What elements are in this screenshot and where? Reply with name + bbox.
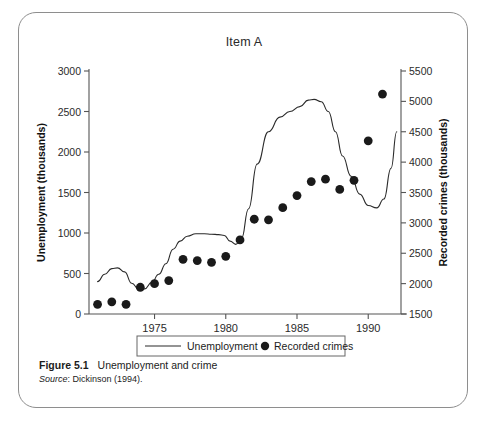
recorded-crimes-point [364, 136, 373, 145]
legend-dot-swatch [261, 342, 269, 350]
caption-figure-number: Figure 5.1 [39, 359, 89, 371]
recorded-crimes-point [250, 215, 259, 224]
caption-figure-title: Unemployment and crime [98, 359, 218, 371]
recorded-crimes-point [93, 300, 102, 309]
x-axis-tick-label: 1990 [356, 322, 380, 334]
right-axis-tick-label: 4000 [409, 156, 433, 168]
left-axis-tick-label: 2000 [58, 146, 82, 158]
right-axis-tick-label: 5000 [409, 95, 433, 107]
recorded-crimes-point [107, 297, 116, 306]
caption-source-text: : Dickinson (1994). [68, 374, 143, 384]
x-axis-tick-label: 1985 [285, 322, 309, 334]
recorded-crimes-point [207, 258, 216, 267]
recorded-crimes-point [350, 176, 359, 185]
left-axis-tick-label: 3000 [58, 65, 82, 77]
right-axis-tick-label: 4500 [409, 126, 433, 138]
x-axis-tick-label: 1975 [142, 322, 166, 334]
figure-page: Item A 050010001500200025003000150020002… [0, 0, 493, 426]
recorded-crimes-point [307, 177, 316, 186]
recorded-crimes-point [179, 255, 188, 264]
figure-card: Item A 050010001500200025003000150020002… [18, 12, 468, 408]
left-axis-tick-label: 2500 [58, 106, 82, 118]
recorded-crimes-point [193, 256, 202, 265]
legend-label-unemployment: Unemployment [187, 340, 258, 352]
right-axis-tick-label: 3000 [409, 217, 433, 229]
recorded-crimes-point [136, 283, 145, 292]
legend-label-recorded-crimes: Recorded crimes [274, 340, 353, 352]
unemployment-line [98, 99, 397, 289]
right-axis-tick-label: 1500 [409, 308, 433, 320]
left-axis-tick-label: 0 [75, 308, 81, 320]
caption-source-label: Source [39, 374, 68, 384]
recorded-crimes-point [335, 185, 344, 194]
recorded-crimes-point [164, 276, 173, 285]
right-axis-title: Recorded crimes (thousands) [437, 118, 449, 266]
recorded-crimes-point [221, 252, 230, 261]
left-axis-tick-label: 1500 [58, 187, 82, 199]
right-axis-tick-label: 5500 [409, 65, 433, 77]
chart-plot: 0500100015002000250030001500200025003000… [19, 13, 469, 409]
recorded-crimes-point [236, 235, 245, 244]
left-axis-title: Unemployment (thousands) [35, 123, 47, 262]
recorded-crimes-point [293, 191, 302, 200]
recorded-crimes-point [321, 175, 330, 184]
recorded-crimes-point [378, 90, 387, 99]
recorded-crimes-point [278, 203, 287, 212]
recorded-crimes-point [150, 279, 159, 288]
caption-source: Source: Dickinson (1994). [39, 374, 449, 384]
left-axis-tick-label: 500 [63, 268, 81, 280]
right-axis-tick-label: 2000 [409, 278, 433, 290]
figure-caption: Figure 5.1Unemployment and crime Source:… [39, 359, 449, 384]
right-axis-tick-label: 3500 [409, 187, 433, 199]
recorded-crimes-point [122, 300, 131, 309]
left-axis-tick-label: 1000 [58, 227, 82, 239]
right-axis-tick-label: 2500 [409, 247, 433, 259]
recorded-crimes-point [264, 215, 273, 224]
x-axis-tick-label: 1980 [214, 322, 238, 334]
caption-primary: Figure 5.1Unemployment and crime [39, 359, 449, 371]
